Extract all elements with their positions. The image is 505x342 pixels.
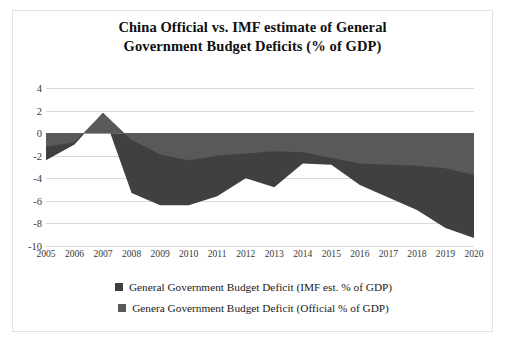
- x-axis-tick-label: 2013: [265, 248, 284, 259]
- legend-item-label: Genera Government Budget Deficit (Offici…: [132, 302, 389, 314]
- y-axis-tick-label: -4: [16, 173, 42, 184]
- legend-item[interactable]: General Government Budget Deficit (IMF e…: [26, 276, 481, 297]
- x-axis-tick-label: 2009: [151, 248, 170, 259]
- x-axis: 2005200620072008200920102011201220132014…: [46, 248, 474, 264]
- y-axis-tick-label: 4: [16, 83, 42, 94]
- x-axis-tick-label: 2011: [208, 248, 227, 259]
- chart-title-line-2: Government Budget Deficits (% of GDP): [40, 37, 465, 56]
- x-axis-tick-label: 2017: [379, 248, 398, 259]
- x-axis-tick-label: 2014: [293, 248, 312, 259]
- x-axis-tick-label: 2019: [436, 248, 455, 259]
- y-axis-tick-label: 2: [16, 105, 42, 116]
- x-axis-tick-label: 2018: [407, 248, 426, 259]
- x-axis-tick-label: 2005: [36, 248, 55, 259]
- chart-legend: General Government Budget Deficit (IMF e…: [26, 276, 481, 318]
- y-axis-tick-label: -2: [16, 150, 42, 161]
- x-axis-tick-label: 2016: [350, 248, 369, 259]
- area-series-group: [46, 88, 474, 246]
- x-axis-tick-label: 2015: [322, 248, 341, 259]
- x-axis-tick-label: 2020: [464, 248, 483, 259]
- legend-swatch-icon: [115, 283, 123, 291]
- legend-item[interactable]: Genera Government Budget Deficit (Offici…: [26, 297, 481, 318]
- plot-area: [46, 88, 474, 246]
- y-axis-tick-label: 0: [16, 128, 42, 139]
- y-axis: 420-2-4-6-8-10: [12, 88, 42, 246]
- gridline: [46, 246, 474, 247]
- x-axis-tick-label: 2008: [122, 248, 141, 259]
- chart-title-line-1: China Official vs. IMF estimate of Gener…: [40, 18, 465, 37]
- chart-figure: China Official vs. IMF estimate of Gener…: [0, 0, 505, 342]
- x-axis-tick-label: 2007: [93, 248, 112, 259]
- legend-swatch-icon: [118, 304, 126, 312]
- x-axis-tick-label: 2006: [65, 248, 84, 259]
- y-axis-tick-label: -8: [16, 218, 42, 229]
- x-axis-tick-label: 2012: [236, 248, 255, 259]
- x-axis-tick-label: 2010: [179, 248, 198, 259]
- y-axis-tick-label: -6: [16, 195, 42, 206]
- legend-item-label: General Government Budget Deficit (IMF e…: [129, 281, 392, 293]
- chart-title: China Official vs. IMF estimate of Gener…: [40, 18, 465, 57]
